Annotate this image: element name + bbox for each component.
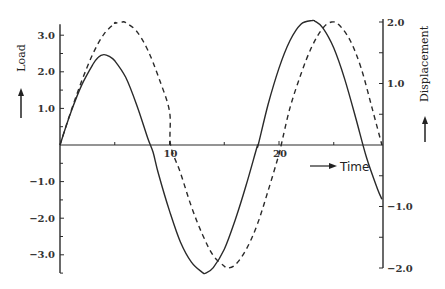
- axis-labels: Load Displacement Time: [15, 25, 431, 174]
- series-group: [60, 20, 382, 273]
- y-tick-label: −3.0: [29, 249, 55, 260]
- y2-tick-label: −1.0: [387, 201, 413, 212]
- load-displacement-chart: 3.02.01.0−1.0−2.0−3.02.01.0−1.0−2.01020 …: [0, 0, 445, 289]
- y-tick-label: −2.0: [29, 213, 55, 224]
- y2-tick-label: 1.0: [387, 78, 404, 89]
- y-tick-label: 1.0: [38, 103, 55, 114]
- right-arrow-icon-time: [310, 163, 337, 169]
- x-axis-title-time: Time: [339, 160, 369, 174]
- y2-tick-label: 2.0: [387, 17, 404, 28]
- y2-tick-label: −2.0: [387, 263, 413, 274]
- axes: 3.02.01.0−1.0−2.0−3.02.01.0−1.0−2.01020: [29, 17, 413, 274]
- y-axis-title-load: Load: [15, 44, 28, 72]
- y-tick-label: 3.0: [38, 30, 55, 41]
- up-arrow-icon-left: [18, 88, 24, 118]
- y-tick-label: −1.0: [29, 176, 55, 187]
- y2-axis-title-displacement: Displacement: [418, 25, 431, 102]
- load-curve-solid: [60, 20, 382, 273]
- x-tick-label: 20: [273, 148, 287, 159]
- x-tick-label: 10: [164, 148, 178, 159]
- y-tick-label: 2.0: [38, 66, 55, 77]
- up-arrow-icon-right: [422, 116, 428, 142]
